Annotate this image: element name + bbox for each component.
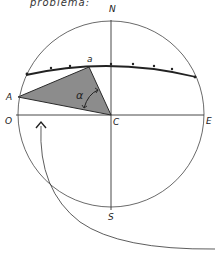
label-center: C xyxy=(113,118,119,127)
label-angle-alpha: α xyxy=(76,90,83,101)
diagram-canvas: problema: N S E O C A xyxy=(0,0,215,255)
label-east: E xyxy=(206,117,212,126)
label-west: O xyxy=(5,117,12,126)
label-point-a: a xyxy=(87,55,93,64)
label-north: N xyxy=(109,5,116,14)
label-point-A: A xyxy=(6,93,12,102)
leader-arrow-curve xyxy=(41,126,215,249)
label-south: S xyxy=(108,213,114,222)
